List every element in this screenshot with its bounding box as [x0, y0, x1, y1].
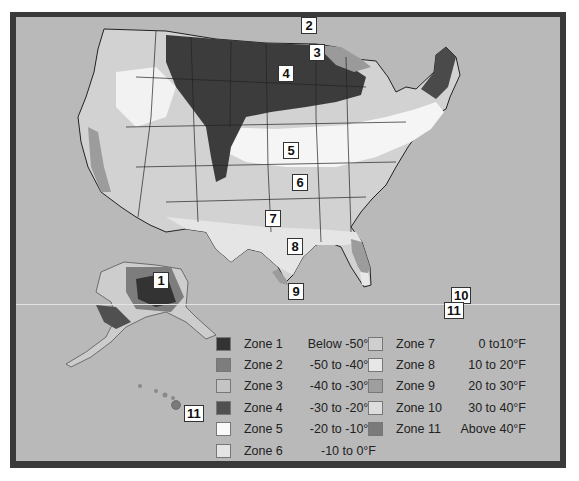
hawaii-islands: [138, 384, 181, 410]
legend-row-zone-10: Zone 10 30 to 40°F: [368, 397, 548, 418]
legend-zone-range: Above 40°F: [454, 422, 526, 436]
map-panel: 1 2 3 4 5 6 7 8 9 10 11 11 Zone 1 Below …: [16, 17, 560, 461]
legend-zone-name: Zone 6: [244, 444, 302, 458]
legend-row-zone-7: Zone 7 0 to10°F: [368, 333, 548, 354]
swatch-zone-11: [368, 422, 383, 436]
legend-column-left: Zone 1 Below -50°F Zone 2 -50 to -40°F Z…: [216, 333, 376, 461]
zone-label-5: 5: [283, 142, 299, 159]
legend-row-zone-6: Zone 6 -10 to 0°F: [216, 440, 376, 461]
legend-zone-range: -20 to -10°F: [302, 422, 376, 436]
legend-row-zone-8: Zone 8 10 to 20°F: [368, 354, 548, 375]
legend-zone-name: Zone 10: [396, 401, 454, 415]
zone-label-7: 7: [265, 210, 281, 227]
legend-zone-name: Zone 7: [396, 337, 454, 351]
legend-zone-name: Zone 11: [396, 422, 454, 436]
zone-label-9: 9: [288, 283, 304, 300]
legend-zone-range: 0 to10°F: [454, 337, 526, 351]
zone-label-11-hawaii: 11: [184, 405, 204, 422]
swatch-zone-2: [216, 358, 231, 372]
legend-zone-range: -10 to 0°F: [302, 444, 376, 458]
zone-label-11-florida: 11: [444, 302, 464, 319]
legend-column-right: Zone 7 0 to10°F Zone 8 10 to 20°F Zone 9…: [368, 333, 548, 440]
zone-label-4: 4: [278, 65, 294, 82]
legend-row-zone-9: Zone 9 20 to 30°F: [368, 376, 548, 397]
legend-zone-name: Zone 4: [244, 401, 302, 415]
swatch-zone-9: [368, 379, 383, 393]
legend-zone-name: Zone 5: [244, 422, 302, 436]
legend-row-zone-3: Zone 3 -40 to -30°F: [216, 376, 376, 397]
horizontal-artifact-line: [16, 304, 560, 305]
swatch-zone-6: [216, 444, 231, 458]
legend-zone-name: Zone 3: [244, 379, 302, 393]
swatch-zone-8: [368, 358, 383, 372]
swatch-zone-4: [216, 401, 231, 415]
legend-row-zone-1: Zone 1 Below -50°F: [216, 333, 376, 354]
legend-zone-name: Zone 9: [396, 379, 454, 393]
swatch-zone-7: [368, 337, 383, 351]
legend-zone-range: -30 to -20°F: [302, 401, 376, 415]
swatch-zone-3: [216, 379, 231, 393]
zone-label-3: 3: [309, 44, 325, 61]
legend-row-zone-2: Zone 2 -50 to -40°F: [216, 354, 376, 375]
legend-row-zone-11: Zone 11 Above 40°F: [368, 419, 548, 440]
legend-zone-name: Zone 2: [244, 358, 302, 372]
swatch-zone-5: [216, 422, 231, 436]
legend-zone-range: -40 to -30°F: [302, 379, 376, 393]
legend-zone-range: 30 to 40°F: [454, 401, 526, 415]
legend-zone-range: 20 to 30°F: [454, 379, 526, 393]
legend-zone-range: 10 to 20°F: [454, 358, 526, 372]
legend-zone-name: Zone 1: [244, 337, 302, 351]
legend-zone-range: Below -50°F: [302, 337, 376, 351]
zone-legend: Zone 1 Below -50°F Zone 2 -50 to -40°F Z…: [216, 333, 556, 461]
zone-label-8: 8: [287, 238, 303, 255]
swatch-zone-1: [216, 337, 231, 351]
legend-zone-name: Zone 8: [396, 358, 454, 372]
legend-row-zone-5: Zone 5 -20 to -10°F: [216, 419, 376, 440]
legend-zone-range: -50 to -40°F: [302, 358, 376, 372]
swatch-zone-10: [368, 401, 383, 415]
zone-label-2: 2: [301, 17, 317, 34]
zone-label-1: 1: [153, 272, 169, 289]
zone-label-6: 6: [292, 174, 308, 191]
legend-row-zone-4: Zone 4 -30 to -20°F: [216, 397, 376, 418]
